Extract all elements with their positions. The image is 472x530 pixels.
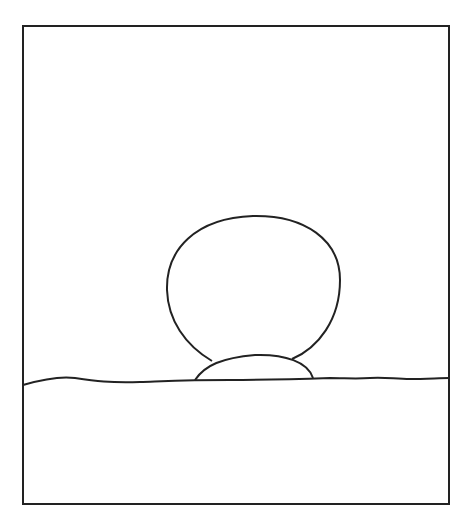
small-dome (195, 355, 313, 380)
horizon-line (23, 377, 449, 385)
large-circle (167, 216, 340, 361)
frame (23, 26, 449, 504)
line-drawing (0, 0, 472, 530)
